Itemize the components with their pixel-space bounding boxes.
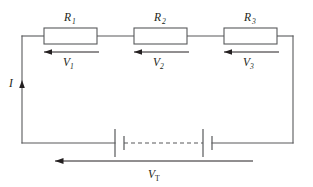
resistor-r3: R 3: [224, 11, 277, 44]
voltage-v2-arrowhead-left: [134, 49, 142, 55]
resistor-r2-label: R: [153, 11, 161, 23]
voltage-v3-sublabel: 3: [249, 62, 254, 71]
resistor-r2-sublabel: 2: [162, 17, 166, 26]
resistor-r2: R 2: [134, 11, 187, 44]
resistor-r1-label: R: [63, 11, 71, 23]
voltage-v2-sublabel: 2: [160, 62, 164, 71]
resistor-r3-label: R: [243, 11, 251, 23]
resistor-r3-sublabel: 3: [251, 17, 256, 26]
circuit-diagram: R 1 R 2 R 3 V 1 V 2: [0, 0, 313, 187]
resistor-r1-body: [44, 28, 97, 44]
resistor-r2-body: [134, 28, 187, 44]
voltage-v2-annotation: V 2: [134, 49, 189, 71]
voltage-v3-annotation: V 3: [224, 49, 279, 71]
total-voltage-sublabel: T: [155, 174, 160, 183]
current-label: I: [8, 77, 14, 89]
voltage-v1-arrowhead-left: [44, 49, 52, 55]
voltage-v1-sublabel: 1: [70, 62, 74, 71]
total-voltage-annotation: V T: [55, 158, 253, 183]
battery-symbol: [115, 129, 212, 157]
resistor-r1-sublabel: 1: [72, 17, 76, 26]
total-voltage-arrowhead-left: [55, 158, 64, 164]
current-arrowhead-up: [19, 80, 25, 88]
circuit-canvas: R 1 R 2 R 3 V 1 V 2: [0, 0, 313, 187]
voltage-v3-arrowhead-left: [224, 49, 232, 55]
voltage-v1-annotation: V 1: [44, 49, 99, 71]
resistor-r1: R 1: [44, 11, 97, 44]
resistor-r3-body: [224, 28, 277, 44]
